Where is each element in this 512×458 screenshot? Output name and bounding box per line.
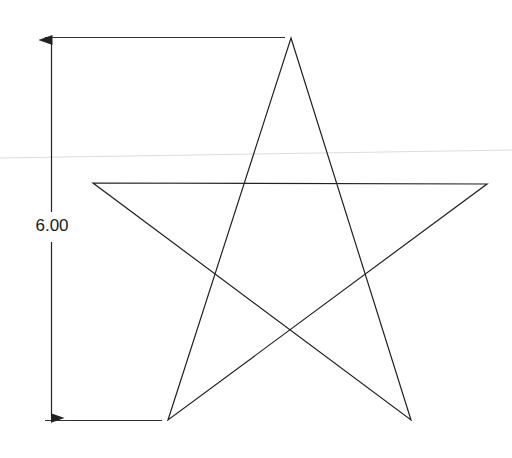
drawing-canvas <box>0 0 512 458</box>
dimension-label: 6.00 <box>31 215 73 237</box>
faint-guide-line <box>0 150 512 158</box>
star-shape <box>93 38 487 420</box>
